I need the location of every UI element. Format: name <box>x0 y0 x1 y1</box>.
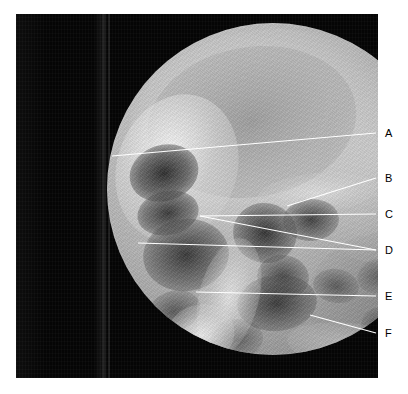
leader-line-overlay <box>0 0 408 394</box>
leader-line-E <box>196 292 376 296</box>
label-D: D <box>385 245 393 256</box>
leader-line-C <box>200 214 376 216</box>
leader-line-B <box>287 178 376 206</box>
leader-line-D2 <box>200 216 376 250</box>
figure-canvas: A B C D E F <box>0 0 408 394</box>
label-B: B <box>385 173 393 184</box>
leader-line-A <box>112 133 376 156</box>
label-A: A <box>385 128 393 139</box>
label-F: F <box>385 328 392 339</box>
label-E: E <box>385 291 393 302</box>
label-C: C <box>385 209 393 220</box>
leader-line-D <box>138 243 376 250</box>
leader-line-F <box>310 315 376 333</box>
